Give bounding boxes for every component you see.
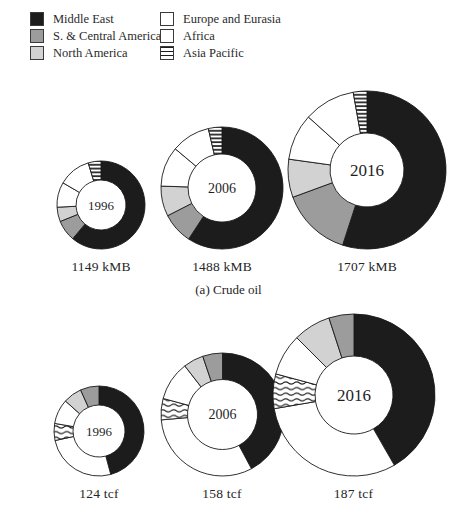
slice-europe-and-eurasia: [274, 402, 394, 476]
crude-oil-1996-donut-chart: 1996: [56, 160, 146, 254]
natural-gas-2006-donut-chart: 2006: [160, 352, 285, 481]
legend-item-middle-east: Middle East: [30, 10, 160, 27]
donut-year-label: 2006: [208, 407, 236, 422]
legend: Middle East S. & Central America North A…: [0, 0, 457, 61]
legend-item-label: Asia Pacific: [183, 46, 244, 60]
total-label: 1488 kMB: [192, 259, 252, 275]
crude-oil-1996-column: 1996 1149 kMB: [35, 160, 167, 275]
crude-oil-2006-column: 2006 1488 kMB: [167, 126, 277, 275]
legend-item-label: S. & Central America: [53, 29, 161, 43]
legend-item-africa: Africa: [160, 27, 281, 44]
total-label: 187 tcf: [334, 486, 373, 502]
legend-column-2: Europe and Eurasia Africa Asia Pacific: [160, 10, 281, 61]
slice-europe-and-eurasia: [55, 437, 111, 476]
crude-oil-2016-column: 2016 1707 kMB: [277, 90, 457, 275]
donut-svg: 1996: [56, 160, 146, 250]
donut-year-label: 2006: [208, 181, 236, 196]
europe-eurasia-swatch-icon: [160, 12, 174, 26]
legend-item-s-central-america: S. & Central America: [30, 27, 160, 44]
total-label: 158 tcf: [202, 486, 241, 502]
natural-gas-1996-donut-chart: 1996: [53, 385, 145, 481]
reserves-figure: Middle East S. & Central America North A…: [0, 0, 457, 509]
donut-year-label: 2016: [337, 386, 371, 405]
crude-oil-2016-donut-chart: 2016: [287, 90, 447, 254]
asia-pacific-swatch-icon: [160, 46, 174, 60]
crude-oil-caption: (a) Crude oil: [0, 282, 457, 298]
crude-oil-donut-row: 1996 1149 kMB 2006 1488 kMB 2016 1707 kM…: [0, 87, 457, 275]
legend-item-label: Europe and Eurasia: [183, 12, 281, 26]
s-central-america-swatch-icon: [30, 29, 44, 43]
middle-east-swatch-icon: [30, 12, 44, 26]
legend-item-north-america: North America: [30, 44, 160, 61]
donut-year-label: 1996: [86, 424, 113, 439]
legend-item-label: North America: [53, 46, 128, 60]
natural-gas-1996-column: 1996 124 tcf: [30, 385, 168, 502]
crude-oil-2006-donut-chart: 2006: [160, 126, 284, 254]
legend-item-europe-eurasia: Europe and Eurasia: [160, 10, 281, 27]
donut-year-label: 1996: [88, 198, 115, 213]
donut-svg: 1996: [53, 385, 145, 477]
donut-svg: 2016: [272, 313, 436, 477]
africa-swatch-icon: [160, 29, 174, 43]
donut-year-label: 2016: [350, 161, 384, 180]
legend-item-asia-pacific: Asia Pacific: [160, 44, 281, 61]
natural-gas-donut-row: 1996 124 tcf 2006 158 tcf 2016 187 tcf: [0, 310, 457, 502]
donut-svg: 2006: [160, 352, 285, 477]
legend-item-label: Africa: [183, 29, 215, 43]
legend-column-1: Middle East S. & Central America North A…: [30, 10, 160, 61]
legend-item-label: Middle East: [53, 12, 114, 26]
donut-svg: 2006: [160, 126, 284, 250]
natural-gas-2006-column: 2006 158 tcf: [168, 352, 276, 502]
north-america-swatch-icon: [30, 46, 44, 60]
natural-gas-2016-donut-chart: 2016: [272, 313, 436, 481]
total-label: 1149 kMB: [71, 259, 130, 275]
total-label: 1707 kMB: [337, 259, 397, 275]
donut-svg: 2016: [287, 90, 447, 250]
total-label: 124 tcf: [79, 486, 118, 502]
slice-europe-and-eurasia: [161, 418, 251, 476]
natural-gas-2016-column: 2016 187 tcf: [276, 313, 431, 502]
